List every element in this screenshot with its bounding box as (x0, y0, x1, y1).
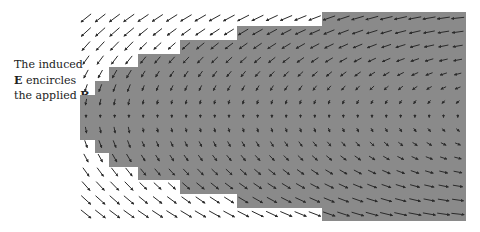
e-field-arrow (109, 210, 119, 218)
e-field-arrow (110, 42, 118, 51)
e-field-arrow (153, 197, 162, 204)
e-field-arrow (168, 183, 175, 190)
e-field-arrow (266, 211, 278, 216)
e-field-arrow (124, 196, 134, 204)
e-field-arrow (110, 28, 120, 37)
e-field-arrow (166, 211, 177, 218)
e-field-arrow (209, 211, 220, 217)
e-field-arrow (81, 28, 91, 37)
e-field-arrow (85, 140, 88, 147)
e-field-arrow (223, 15, 234, 21)
e-field-arrow (210, 197, 220, 203)
e-field-arrow (252, 211, 264, 217)
e-field-arrow (152, 211, 163, 218)
e-field-arrow (266, 15, 278, 20)
e-field-arrow (97, 168, 103, 177)
e-field-arrow (167, 29, 176, 36)
e-field-arrow (209, 15, 220, 21)
e-field-arrow (167, 197, 176, 204)
e-field-arrow (98, 70, 102, 78)
e-field-arrow (280, 212, 292, 217)
e-field-arrow (98, 154, 102, 162)
e-field-arrow (210, 29, 220, 35)
e-field-arrow (83, 56, 89, 65)
vector-field-figure (0, 0, 480, 232)
e-field-arrow (125, 42, 133, 51)
e-field-arrow (182, 29, 191, 36)
e-field-arrow (140, 43, 147, 50)
e-field-arrow (295, 16, 307, 21)
e-field-arrow (224, 29, 234, 35)
e-field-arrow (154, 43, 161, 50)
e-field-arrow (139, 196, 148, 203)
e-field-arrow (84, 154, 88, 162)
e-field-arrow (111, 168, 117, 176)
e-field-arrow (83, 168, 89, 177)
e-field-arrow (166, 15, 177, 22)
e-field-arrow (196, 197, 205, 203)
e-field-arrow (82, 182, 90, 191)
e-field-arrow (126, 168, 133, 176)
applied-b-field-region (80, 12, 466, 221)
e-field-arrow (96, 182, 104, 191)
e-field-arrow (152, 15, 163, 22)
e-field-arrow (110, 196, 120, 205)
e-field-arrow (154, 183, 161, 190)
e-field-arrow (111, 56, 117, 64)
e-field-arrow (223, 211, 234, 217)
e-field-arrow (126, 56, 133, 64)
e-field-arrow (238, 15, 249, 21)
e-field-arrow (125, 182, 133, 191)
e-field-arrow (124, 14, 135, 22)
e-field-arrow (195, 15, 206, 21)
e-field-arrow (238, 211, 249, 217)
e-field-arrow (139, 28, 148, 35)
e-field-arrow (95, 210, 105, 218)
e-field-arrow (224, 197, 234, 203)
e-field-arrow (81, 210, 91, 218)
e-field-arrow (124, 210, 135, 218)
e-field-arrow (195, 211, 206, 217)
e-field-arrow (280, 16, 292, 21)
e-field-arrow (96, 28, 106, 37)
e-field-arrow (109, 14, 119, 22)
e-field-arrow (96, 196, 106, 205)
e-field-arrow (81, 196, 91, 205)
e-field-arrow (252, 15, 264, 21)
e-field-arrow (309, 16, 321, 21)
e-field-arrow (138, 14, 149, 21)
e-field-arrow (97, 56, 103, 65)
e-field-arrow (309, 212, 321, 217)
e-field-arrow (181, 211, 192, 218)
e-field-arrow (82, 42, 90, 51)
e-field-arrow (153, 29, 162, 36)
e-field-arrow (110, 182, 118, 191)
e-field-arrow (95, 14, 105, 22)
e-field-arrow (168, 43, 175, 50)
e-field-arrow (138, 210, 149, 217)
e-field-arrow (84, 70, 88, 78)
e-field-arrow (140, 183, 147, 190)
e-field-arrow (295, 212, 307, 217)
e-field-arrow (124, 28, 134, 36)
e-field-arrow (96, 42, 104, 51)
e-field-arrow (85, 84, 88, 91)
e-field-arrow (81, 14, 91, 22)
e-field-arrow (181, 15, 192, 22)
e-field-arrow (182, 197, 191, 204)
e-field-arrow (196, 29, 205, 35)
